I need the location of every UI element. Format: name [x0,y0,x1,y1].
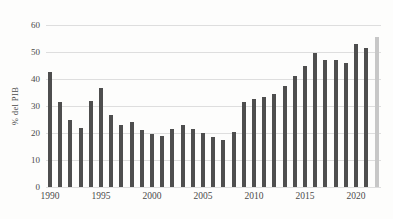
bar-1991 [58,102,62,187]
bar-2004 [191,129,195,187]
x-tick-label: 2010 [234,191,274,201]
y-tick-label: 10 [0,156,40,165]
x-tick-label: 2000 [132,191,172,201]
bar-1999 [140,130,144,187]
bar-2001 [160,136,164,187]
gridline [46,133,381,134]
y-tick-label: 30 [0,102,40,111]
gridline [46,106,381,107]
bar-2017 [323,60,327,187]
x-tick-label: 1995 [81,191,121,201]
bar-1997 [119,125,123,187]
bar-1998 [130,122,134,187]
bar-1996 [109,115,113,187]
bar-1995 [99,88,103,187]
y-tick-label: 20 [0,129,40,138]
bar-2002 [170,129,174,187]
bar-2008 [232,132,236,187]
gridline [46,25,381,26]
bar-2013 [283,86,287,187]
bar-2019 [344,63,348,187]
bar-chart: % del PIB 010203040506019901995200020052… [0,0,393,219]
y-tick-label: 40 [0,75,40,84]
y-tick-label: 60 [0,21,40,30]
bar-2020 [354,44,358,187]
bar-2005 [201,133,205,187]
bar-2016 [313,53,317,187]
bar-1994 [89,101,93,187]
bar-2018 [334,60,338,187]
gridline [46,79,381,80]
bar-2021 [364,48,368,187]
bar-2000 [150,134,154,187]
plot-area [46,25,381,187]
bar-1990 [48,72,52,187]
gridline [46,52,381,53]
bar-2003 [181,125,185,187]
bar-2015 [303,66,307,188]
x-tick-label: 1990 [30,191,70,201]
x-tick-label: 2020 [336,191,376,201]
x-tick-label: 2005 [183,191,223,201]
bar-2014 [293,76,297,187]
bar-2009 [242,102,246,187]
bar-1993 [79,128,83,187]
bar-2011 [262,97,266,187]
bar-2007 [221,140,225,187]
bar-2022 [375,37,379,187]
x-tick-label: 2015 [285,191,325,201]
bar-2006 [211,137,215,187]
bar-2012 [272,94,276,187]
bar-2010 [252,99,256,187]
bar-1992 [68,120,72,188]
y-tick-label: 50 [0,48,40,57]
